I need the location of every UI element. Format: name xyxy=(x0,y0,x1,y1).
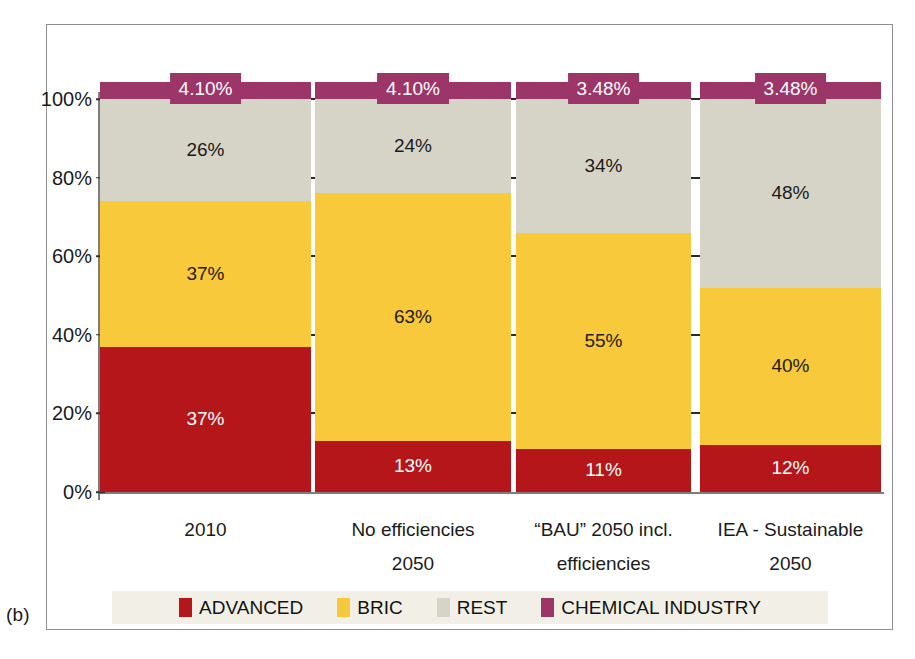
chemical-industry-value-tab: 3.48% xyxy=(755,73,827,104)
bar-segment-advanced[interactable]: 13% xyxy=(315,441,511,492)
legend-swatch-icon xyxy=(337,598,350,617)
gridline-segment xyxy=(691,177,700,179)
gridline-segment xyxy=(691,255,700,257)
bar-segment-value: 55% xyxy=(584,330,622,352)
x-category-label-line: IEA - Sustainable xyxy=(678,513,903,547)
chemical-industry-value-tab: 4.10% xyxy=(377,73,449,104)
figure-panel-b: (b) 0%20%40%60%80%100% 37%37%26%4.10%13%… xyxy=(0,0,915,659)
bar-segment-value: 40% xyxy=(771,355,809,377)
legend-item[interactable]: BRIC xyxy=(337,597,402,619)
bar-segment-bric[interactable]: 63% xyxy=(315,193,511,441)
y-tick-label: 40% xyxy=(30,323,92,346)
legend-swatch-icon xyxy=(541,598,554,617)
legend-swatch-icon xyxy=(437,598,450,617)
legend-label: ADVANCED xyxy=(199,597,303,619)
legend-label: REST xyxy=(457,597,508,619)
legend-item[interactable]: CHEMICAL INDUSTRY xyxy=(541,597,761,619)
bar-segment-value: 11% xyxy=(585,459,622,481)
bar-segment-value: 13% xyxy=(394,455,432,477)
legend-label: CHEMICAL INDUSTRY xyxy=(561,597,761,619)
bar-segment-value: 26% xyxy=(186,139,224,161)
bar-segment-rest[interactable]: 34% xyxy=(516,99,691,233)
chemical-industry-value-tab: 4.10% xyxy=(170,73,242,104)
bar-segment-advanced[interactable]: 12% xyxy=(700,445,881,492)
bar-segment-value: 48% xyxy=(771,182,809,204)
legend-item[interactable]: REST xyxy=(437,597,508,619)
gridline-segment xyxy=(691,334,700,336)
panel-caption: (b) xyxy=(6,604,30,626)
bar-segment-bric[interactable]: 40% xyxy=(700,288,881,445)
bar-segment-value: 37% xyxy=(186,408,224,430)
bar-segment-value: 37% xyxy=(186,263,224,285)
y-tick-label: 0% xyxy=(30,481,92,504)
bar-segment-advanced[interactable]: 37% xyxy=(100,347,311,492)
bar-segment-rest[interactable]: 48% xyxy=(700,99,881,288)
legend-swatch-icon xyxy=(179,598,192,617)
x-category-label-line: 2050 xyxy=(678,547,903,581)
x-category-label: IEA - Sustainable2050 xyxy=(678,513,903,581)
chart-legend: ADVANCEDBRICRESTCHEMICAL INDUSTRY xyxy=(112,591,828,624)
bar-segment-value: 34% xyxy=(584,155,622,177)
gridline-segment xyxy=(691,98,700,100)
y-tick-label: 20% xyxy=(30,402,92,425)
gridline-segment xyxy=(691,412,700,414)
y-tick-label: 60% xyxy=(30,245,92,268)
bar-segment-value: 12% xyxy=(771,457,809,479)
legend-item[interactable]: ADVANCED xyxy=(179,597,303,619)
bar-segment-bric[interactable]: 55% xyxy=(516,233,691,449)
chemical-industry-value-tab: 3.48% xyxy=(568,73,640,104)
y-tick-label: 80% xyxy=(30,166,92,189)
bar-segment-bric[interactable]: 37% xyxy=(100,201,311,346)
bar-segment-advanced[interactable]: 11% xyxy=(516,449,691,492)
y-tick-label: 100% xyxy=(30,88,92,111)
bar-segment-value: 24% xyxy=(394,135,432,157)
legend-label: BRIC xyxy=(357,597,402,619)
bar-segment-rest[interactable]: 26% xyxy=(100,99,311,201)
bar-segment-rest[interactable]: 24% xyxy=(315,99,511,193)
y-axis-tick-labels: 0%20%40%60%80%100% xyxy=(28,0,92,659)
bar-group[interactable]: 37%37%26%4.10% xyxy=(100,0,311,659)
bar-segment-value: 63% xyxy=(394,306,432,328)
